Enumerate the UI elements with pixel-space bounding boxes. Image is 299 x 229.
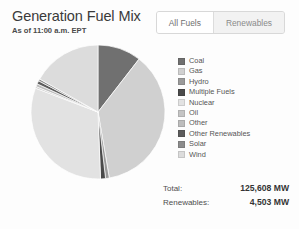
legend-swatch-icon bbox=[178, 141, 185, 148]
legend-item[interactable]: Multiple Fuels bbox=[178, 87, 293, 97]
timestamp-subtitle: As of 11:00 a.m. EPT bbox=[12, 26, 141, 36]
total-label: Total: bbox=[163, 184, 219, 193]
legend-item-label: Solar bbox=[189, 139, 206, 149]
legend-swatch-icon bbox=[178, 110, 185, 117]
legend-item[interactable]: Wind bbox=[178, 150, 293, 160]
totals-block: Total:125,608 MWRenewables:4,503 MW bbox=[163, 183, 293, 211]
page-title: Generation Fuel Mix bbox=[12, 8, 141, 25]
toggle-option-renewables[interactable]: Renewables bbox=[214, 12, 284, 33]
toggle-option-all-fuels[interactable]: All Fuels bbox=[157, 12, 214, 33]
generation-fuel-mix-widget: Generation Fuel Mix As of 11:00 a.m. EPT… bbox=[0, 0, 299, 229]
legend-item[interactable]: Other Renewables bbox=[178, 129, 293, 139]
legend-swatch-icon bbox=[178, 151, 185, 158]
widget-header: Generation Fuel Mix As of 11:00 a.m. EPT… bbox=[12, 8, 287, 38]
legend-item-label: Coal bbox=[189, 56, 204, 66]
legend-item[interactable]: Other bbox=[178, 118, 293, 128]
fuel-mix-pie-chart bbox=[28, 42, 168, 182]
legend-item[interactable]: Gas bbox=[178, 66, 293, 76]
total-value: 4,503 MW bbox=[219, 197, 289, 207]
legend-swatch-icon bbox=[178, 130, 185, 137]
legend-swatch-icon bbox=[178, 99, 185, 106]
legend-item-label: Gas bbox=[189, 66, 203, 76]
legend-item-label: Hydro bbox=[189, 77, 209, 87]
legend-item-label: Other bbox=[189, 118, 207, 128]
fuel-filter-toggle[interactable]: All FuelsRenewables bbox=[156, 11, 285, 34]
legend-item-label: Multiple Fuels bbox=[189, 87, 235, 97]
legend-item-label: Wind bbox=[189, 150, 206, 160]
legend-item[interactable]: Solar bbox=[178, 139, 293, 149]
total-label: Renewables: bbox=[163, 198, 219, 207]
legend-swatch-icon bbox=[178, 120, 185, 127]
legend-item[interactable]: Hydro bbox=[178, 77, 293, 87]
legend-swatch-icon bbox=[178, 68, 185, 75]
total-row: Renewables:4,503 MW bbox=[163, 197, 293, 211]
chart-legend: CoalGasHydroMultiple FuelsNuclearOilOthe… bbox=[178, 56, 293, 160]
legend-swatch-icon bbox=[178, 78, 185, 85]
pie-svg bbox=[28, 42, 168, 182]
legend-item[interactable]: Coal bbox=[178, 56, 293, 66]
legend-swatch-icon bbox=[178, 58, 185, 65]
total-row: Total:125,608 MW bbox=[163, 183, 293, 197]
legend-swatch-icon bbox=[178, 89, 185, 96]
title-block: Generation Fuel Mix As of 11:00 a.m. EPT bbox=[12, 8, 141, 36]
legend-item-label: Nuclear bbox=[189, 98, 214, 108]
legend-item[interactable]: Nuclear bbox=[178, 98, 293, 108]
total-value: 125,608 MW bbox=[219, 183, 289, 193]
legend-item[interactable]: Oil bbox=[178, 108, 293, 118]
legend-item-label: Oil bbox=[189, 108, 198, 118]
legend-item-label: Other Renewables bbox=[189, 129, 250, 139]
